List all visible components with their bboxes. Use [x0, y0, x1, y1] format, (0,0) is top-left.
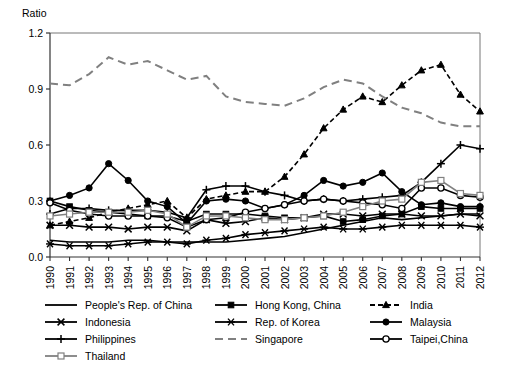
x-tick-label: 2001: [259, 266, 271, 290]
y-tick-label: 0.3: [28, 195, 43, 207]
legend-item-hong-kong-china[interactable]: Hong Kong, China: [215, 299, 341, 311]
legend-marker-icon: [228, 302, 234, 308]
x-tick-label: 2009: [415, 266, 427, 290]
x-tick-label: 1990: [44, 266, 56, 290]
legend-label: People's Rep. of China: [85, 299, 192, 311]
legend-label: Hong Kong, China: [255, 299, 341, 311]
legend-marker-icon: [227, 319, 235, 326]
x-tick-label: 1992: [83, 266, 95, 290]
chart-root: 0.00.30.60.91.2 199019911992199319941995…: [0, 0, 508, 373]
x-tick-label: 1998: [200, 266, 212, 290]
series-thailand: [47, 177, 483, 230]
y-tick-label: 0.6: [28, 139, 43, 151]
y-tick-label: 0.0: [28, 251, 43, 263]
x-tick-label: 2003: [298, 266, 310, 290]
legend-item-philippines[interactable]: Philippines: [45, 333, 136, 345]
x-tick-label: 1999: [220, 266, 232, 290]
legend-item-indonesia[interactable]: Indonesia: [45, 316, 131, 328]
series-rep-of-korea: [46, 222, 484, 249]
legend-item-people-s-rep-of-china[interactable]: People's Rep. of China: [45, 299, 192, 311]
legend-label: Thailand: [85, 350, 125, 362]
legend-item-taipei-china[interactable]: Taipei,China: [370, 333, 468, 345]
legend-item-rep-of-korea[interactable]: Rep. of Korea: [215, 316, 320, 328]
x-tick-label: 1993: [103, 266, 115, 290]
x-tick-label: 2008: [396, 266, 408, 290]
legend-marker-icon: [383, 336, 389, 342]
legend-item-india[interactable]: India: [370, 299, 433, 311]
x-tick-label: 2002: [279, 266, 291, 290]
x-axis: 1990199119921993199419951996199719981999…: [44, 257, 486, 289]
x-tick-label: 1995: [142, 266, 154, 290]
x-tick-label: 1991: [64, 266, 76, 290]
series-singapore: [50, 57, 480, 126]
legend-marker-icon: [383, 319, 389, 325]
legend-label: Singapore: [255, 333, 303, 345]
x-tick-label: 2007: [376, 266, 388, 290]
line-chart: 0.00.30.60.91.2 199019911992199319941995…: [0, 0, 508, 373]
legend-label: Malaysia: [410, 316, 452, 328]
series-layer: [46, 57, 484, 249]
x-tick-label: 1994: [122, 266, 134, 290]
legend-label: Philippines: [85, 333, 136, 345]
y-tick-label: 1.2: [28, 27, 43, 39]
y-tick-label: 0.9: [28, 83, 43, 95]
legend-item-singapore[interactable]: Singapore: [215, 333, 303, 345]
x-tick-label: 1996: [161, 266, 173, 290]
legend-item-thailand[interactable]: Thailand: [45, 350, 125, 362]
legend-label: Rep. of Korea: [255, 316, 320, 328]
x-tick-label: 2012: [474, 266, 486, 290]
legend-label: Taipei,China: [410, 333, 468, 345]
chart-legend: People's Rep. of ChinaHong Kong, ChinaIn…: [45, 299, 468, 362]
x-tick-label: 2006: [357, 266, 369, 290]
legend-marker-icon: [58, 353, 64, 359]
y-axis-title: Ratio: [22, 7, 47, 19]
legend-label: Indonesia: [85, 316, 131, 328]
x-tick-label: 2011: [454, 266, 466, 289]
legend-marker-icon: [57, 335, 65, 343]
plot-frame: [50, 33, 480, 257]
x-tick-label: 1997: [181, 266, 193, 290]
legend-item-malaysia[interactable]: Malaysia: [370, 316, 452, 328]
x-tick-label: 2005: [337, 266, 349, 290]
legend-label: India: [410, 299, 433, 311]
x-tick-label: 2000: [239, 266, 251, 290]
x-tick-label: 2010: [435, 266, 447, 290]
x-tick-label: 2004: [318, 266, 330, 290]
